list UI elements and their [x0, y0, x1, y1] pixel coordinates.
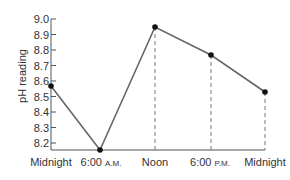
- y-tick-label: 8.6: [34, 75, 49, 87]
- data-point-noon: [152, 24, 158, 30]
- y-tick-labels: 9.0 8.9 8.8 8.7 8.6 8.5 8.4 8.3 8.2: [34, 13, 49, 149]
- y-tick-label: 8.4: [34, 106, 49, 118]
- x-tick-label: 6:00 P.M.: [190, 156, 230, 168]
- x-tick-label: Midnight: [30, 156, 72, 168]
- y-tick-label: 9.0: [34, 13, 49, 25]
- data-points: [48, 24, 268, 153]
- y-ticks: [51, 19, 56, 143]
- y-tick-label: 8.3: [34, 122, 49, 134]
- y-tick-label: 8.7: [34, 60, 49, 72]
- drop-lines: [155, 27, 265, 150]
- y-tick-label: 8.9: [34, 29, 49, 41]
- x-tick-label: Noon: [142, 156, 168, 168]
- y-tick-label: 8.2: [34, 137, 49, 149]
- data-point-midnight-start: [48, 83, 54, 89]
- y-tick-label: 8.5: [34, 91, 49, 103]
- ph-line-chart: 9.0 8.9 8.8 8.7 8.6 8.5 8.4 8.3 8.2 pH r…: [0, 0, 290, 180]
- x-tick-labels: Midnight 6:00 A.M. Noon 6:00 P.M. Midnig…: [30, 156, 286, 168]
- y-tick-label: 8.8: [34, 44, 49, 56]
- y-axis-title: pH reading: [16, 49, 28, 103]
- data-point-6am: [97, 147, 103, 153]
- data-point-midnight-end: [262, 89, 268, 95]
- x-tick-label: 6:00 A.M.: [81, 156, 122, 168]
- ph-series-line: [51, 27, 265, 150]
- data-point-6pm: [208, 52, 214, 58]
- x-tick-label: Midnight: [244, 156, 286, 168]
